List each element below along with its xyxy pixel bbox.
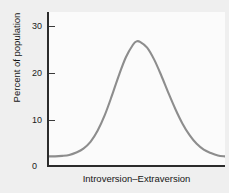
chart-figure: 30 20 10 0 Percent of population Introve… bbox=[0, 0, 229, 193]
normal-distribution-curve bbox=[48, 41, 225, 156]
plot-area bbox=[48, 12, 225, 166]
y-tick-mark-10 bbox=[49, 120, 55, 121]
y-tick-label-10: 10 bbox=[32, 116, 42, 125]
y-axis-line bbox=[47, 12, 49, 167]
x-axis-line bbox=[47, 165, 225, 167]
y-tick-mark-20 bbox=[49, 73, 55, 74]
y-tick-label-20: 20 bbox=[32, 69, 42, 78]
y-tick-label-0: 0 bbox=[32, 162, 37, 171]
distribution-curve-svg bbox=[48, 12, 225, 166]
y-tick-label-30: 30 bbox=[32, 22, 42, 31]
x-axis-title: Introversion–Extraversion bbox=[48, 173, 225, 184]
y-tick-mark-30 bbox=[49, 26, 55, 27]
y-axis-title: Percent of population bbox=[11, 0, 22, 118]
